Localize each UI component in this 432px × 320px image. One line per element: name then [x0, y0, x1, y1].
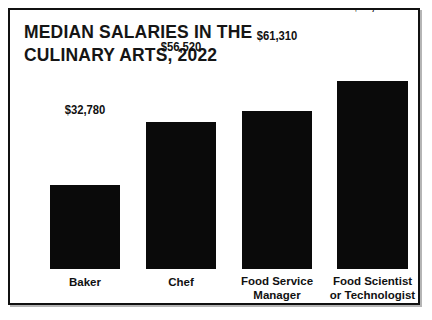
- bar-rect: [337, 81, 408, 269]
- bar-group-food-scientist-or-technologist: $74,940 Food Scientist or Technologist: [337, 8, 408, 303]
- bar-group-chef: $56,520 Chef: [146, 8, 216, 303]
- bar-category-label: Food Service Manager: [230, 275, 324, 302]
- bar-value-label: $32,780: [65, 104, 106, 117]
- bar-rect: [242, 111, 312, 269]
- bar-rect: [146, 122, 216, 269]
- bar-category-label: Food Scientist or Technologist: [325, 275, 420, 302]
- plot-area: $32,780 Baker $56,520 Chef $61,310 Food …: [10, 10, 418, 303]
- chart-poster: MEDIAN SALARIES IN THE CULINARY ARTS, 20…: [8, 8, 420, 305]
- bar-value-label: $74,940: [352, 8, 393, 13]
- bar-value-label: $61,310: [257, 30, 298, 43]
- bar-category-label: Chef: [134, 276, 228, 290]
- bar-value-label: $56,520: [161, 41, 202, 54]
- bar-group-baker: $32,780 Baker: [50, 8, 120, 303]
- bar-category-label: Baker: [38, 276, 132, 290]
- bar-rect: [50, 185, 120, 269]
- bar-group-food-service-manager: $61,310 Food Service Manager: [242, 8, 312, 303]
